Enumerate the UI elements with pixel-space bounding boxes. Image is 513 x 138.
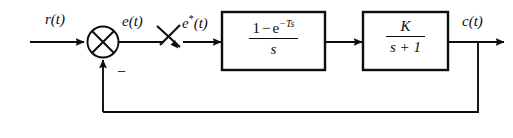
output-signal-label: c(t) <box>462 14 483 29</box>
sampler-switch-stroke-b <box>160 25 180 45</box>
zoh-denominator: s <box>249 41 299 57</box>
zoh-num-operator: − <box>260 20 272 36</box>
plant-denominator: s + 1 <box>386 39 425 55</box>
plant-fraction-bar <box>386 36 425 37</box>
zero-order-hold-expression: 1−e−Ts s <box>222 19 325 57</box>
block-diagram-figure: r(t) e(t) e*(t) c(t) − 1−e−Ts s K s + 1 <box>0 0 513 138</box>
error-signal-label: e(t) <box>122 14 143 29</box>
sampled-error-base: e <box>182 15 189 31</box>
zoh-num-exponent: −Ts <box>279 18 294 29</box>
zoh-fraction: 1−e−Ts s <box>249 19 299 57</box>
plant-expression: K s + 1 <box>363 19 448 55</box>
sampled-error-arg: (t) <box>194 15 208 31</box>
zoh-numerator: 1−e−Ts <box>249 19 299 37</box>
zoh-fraction-bar <box>249 38 299 39</box>
zoh-num-lead: 1 <box>253 20 261 36</box>
sampled-error-signal-label: e*(t) <box>182 14 208 31</box>
feedback-negative-sign: − <box>117 64 126 80</box>
plant-numerator: K <box>386 19 425 35</box>
plant-fraction: K s + 1 <box>386 19 425 55</box>
input-signal-label: r(t) <box>45 12 65 27</box>
